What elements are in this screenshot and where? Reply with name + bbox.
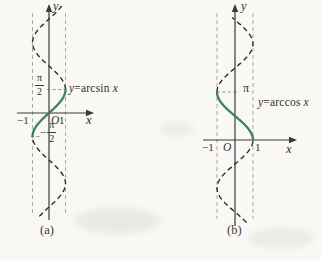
panel-b-tick-minus1: −1 <box>202 142 214 153</box>
fraction-numerator: π <box>47 120 56 133</box>
fraction-pi-over-2: π 2 <box>35 73 44 97</box>
curve-label-rhs: x <box>304 96 309 108</box>
panel-a-y-axis-label: y <box>53 0 59 13</box>
panel-a-ytick-pi-over-2: π 2 <box>35 72 44 97</box>
panel-b-ytick-pi: π <box>243 82 249 94</box>
panel-b-x-axis-label: x <box>286 143 292 156</box>
curve-label-rhs: x <box>113 82 118 94</box>
panel-a-tick-plus1: 1 <box>59 115 65 126</box>
curve-label-arcsin: y=arcsinx <box>69 83 118 95</box>
fraction-pi-over-2: π 2 <box>47 120 56 144</box>
panel-b-caption: (b) <box>227 224 242 237</box>
minus-sign: − <box>40 127 46 138</box>
y-axis-arrow <box>232 4 238 12</box>
panel-a-tick-minus1: −1 <box>17 115 29 126</box>
fraction-numerator: π <box>35 73 44 86</box>
fraction-denominator: 2 <box>49 133 54 145</box>
fraction-denominator: 2 <box>37 86 42 98</box>
panel-a-caption: (a) <box>40 224 54 237</box>
panel-a-x-axis-label: x <box>86 114 92 127</box>
figure-canvas: y x O −1 1 π 2 − π 2 y=arcsinx (a) y x O… <box>0 0 321 260</box>
curve-label-mid: =arcsin <box>74 82 109 94</box>
panel-a-ytick-minus-pi-over-2: − π 2 <box>40 120 56 144</box>
curve-label-arccos: y=arccosx <box>258 97 309 109</box>
panel-b-tick-plus1: 1 <box>255 142 261 153</box>
curve-label-mid: =arccos <box>263 96 300 108</box>
panel-b-origin-label: O <box>223 142 231 154</box>
y-axis-arrow <box>46 4 52 12</box>
panel-b-y-axis-label: y <box>241 0 247 13</box>
